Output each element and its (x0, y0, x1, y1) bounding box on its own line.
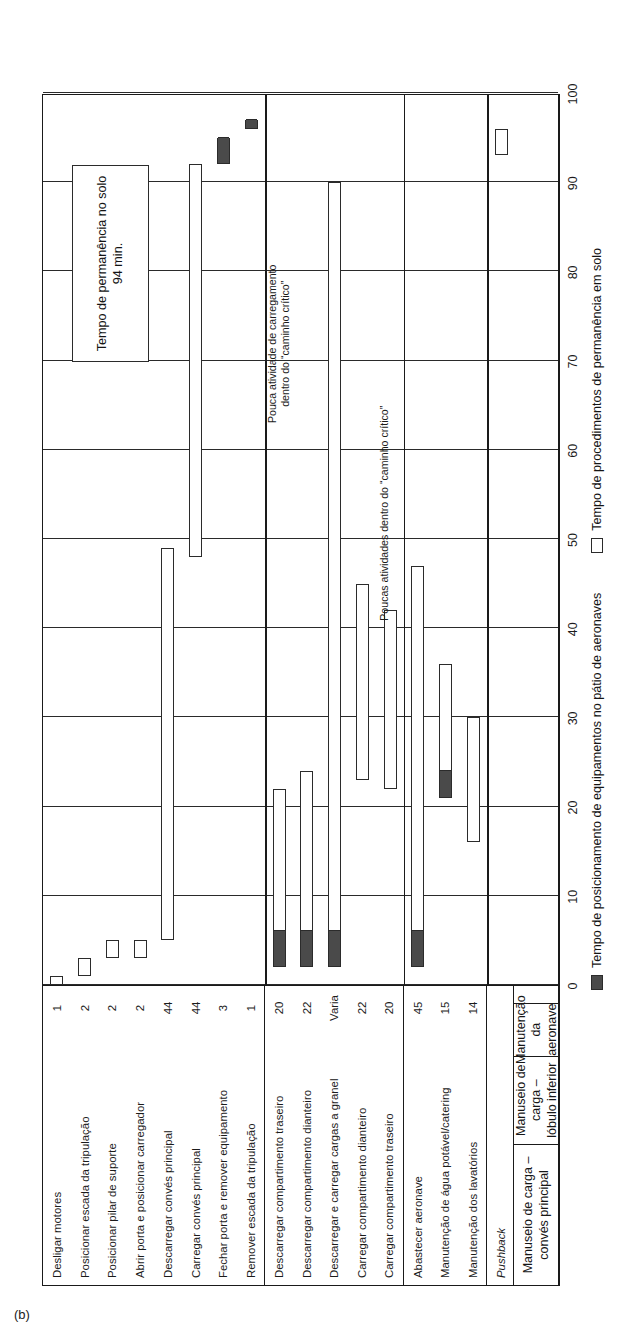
axis-tick-label: 60 (566, 444, 580, 458)
task-duration: 45 (403, 986, 431, 1030)
bar-setup-segment (329, 931, 340, 967)
axis-tick-label: 10 (566, 890, 580, 904)
task-name: Pushback (487, 1030, 515, 1285)
gantt-bar (50, 976, 63, 985)
rotated-figure-wrapper: Manuseio de carga – convés principalManu… (0, 0, 635, 1332)
group-header-row: Manuseio de carga – convés principalManu… (513, 985, 559, 1285)
gantt-bar (216, 138, 229, 165)
task-name: Descarregar compartimento dianteiro (292, 1030, 320, 1285)
group-header: Manuseio de carga – lóbulo inferior (514, 1056, 560, 1144)
task-duration: 44 (154, 986, 182, 1030)
bar-setup-segment (301, 931, 312, 967)
axis-tick-label: 100 (566, 84, 580, 105)
gantt-bar (161, 548, 174, 940)
axis-tick-label: 20 (566, 801, 580, 815)
task-duration: 22 (292, 986, 320, 1030)
gantt-bar (133, 940, 146, 958)
task-duration: 14 (459, 986, 487, 1030)
legend-swatch-light-icon (591, 538, 603, 553)
task-name: Desligar motores (43, 1030, 71, 1285)
task-duration: 22 (348, 986, 376, 1030)
axis-tick-label: 0 (566, 983, 580, 990)
chart-annotation: Poucas atividades dentro do “caminho crí… (377, 308, 391, 718)
task-duration: 15 (431, 986, 459, 1030)
axis-tick-label: 80 (566, 265, 580, 279)
gantt-bar (272, 789, 285, 967)
grid-line (43, 984, 558, 985)
task-label-columns: Desligar motoresPosicionar escada da tri… (43, 986, 558, 1285)
task-name: Manutenção de água potável/catering (431, 1030, 459, 1285)
gantt-bar (78, 958, 91, 976)
task-name: Abastecer aeronave (403, 1030, 431, 1285)
gantt-bar (355, 584, 368, 780)
task-duration: 3 (209, 986, 237, 1030)
task-name: Remover escada da tripulação (237, 1030, 265, 1285)
task-name: Descarregar convés principal (154, 1030, 182, 1285)
chart-annotation: Pouca atividade de carregamento dentro d… (265, 210, 293, 478)
legend-label: Tempo de procedimentos de permanência em… (590, 248, 604, 531)
bar-setup-segment (217, 137, 228, 164)
axis-tick-label: 40 (566, 622, 580, 636)
legend-item: Tempo de procedimentos de permanência em… (590, 248, 604, 553)
gantt-bar (189, 164, 202, 556)
grid-line (43, 627, 558, 628)
task-name-column: Desligar motoresPosicionar escada da tri… (43, 1030, 558, 1285)
task-duration: 2 (70, 986, 98, 1030)
figure-page: Manuseio de carga – convés principalManu… (0, 0, 635, 1332)
task-duration: 20 (265, 986, 293, 1030)
task-name: Descarregar e carregar cargas a granel (320, 1030, 348, 1285)
task-name: Posicionar pilar de suporte (98, 1030, 126, 1285)
task-duration: 2 (126, 986, 154, 1030)
task-duration (487, 986, 515, 1030)
bar-setup-segment (245, 119, 256, 128)
gantt-bar (300, 771, 313, 967)
gantt-bar (494, 129, 507, 156)
task-name: Abrir porta e posicionar carregador (126, 1030, 154, 1285)
task-name: Carregar compartimento dianteiro (348, 1030, 376, 1285)
task-duration: 20 (376, 986, 404, 1030)
task-duration: 1 (237, 986, 265, 1030)
task-duration: 44 (181, 986, 209, 1030)
gantt-bar (466, 717, 479, 842)
task-name: Posicionar escada da tripulação (70, 1030, 98, 1285)
legend-item: Tempo de posicionamento de equipamentos … (590, 593, 604, 990)
grid-line (43, 538, 558, 539)
task-duration: 1 (43, 986, 71, 1030)
axis-tick-label: 30 (566, 711, 580, 725)
ground-time-callout: Tempo de permanência no solo 94 min. (71, 165, 148, 361)
grid-line (43, 92, 558, 93)
grid-line (43, 716, 558, 717)
bar-setup-segment (440, 770, 451, 797)
task-name: Carregar convés principal (181, 1030, 209, 1285)
time-axis: 0102030405060708090100 (564, 94, 590, 986)
gantt-bar (411, 566, 424, 967)
figure-caption: (b) (14, 1307, 30, 1322)
chart-legend: Tempo de posicionamento de equipamentos … (590, 248, 604, 990)
task-name: Carregar compartimento traseiro (376, 1030, 404, 1285)
group-separator (487, 95, 488, 985)
axis-tick-label: 50 (566, 533, 580, 547)
axis-tick-label: 90 (566, 176, 580, 190)
gantt-chart: Manuseio de carga – convés principalManu… (20, 38, 616, 1294)
task-name: Manutenção dos lavatórios (459, 1030, 487, 1285)
gantt-bar (439, 664, 452, 798)
group-header (514, 985, 560, 1003)
task-duration: 2 (98, 986, 126, 1030)
bar-setup-segment (273, 931, 284, 967)
gantt-bar (244, 120, 257, 129)
legend-swatch-dark-icon (591, 975, 603, 990)
task-name: Descarregar compartimento traseiro (265, 1030, 293, 1285)
grid-line (43, 449, 558, 450)
gantt-bar (105, 940, 118, 958)
bar-setup-segment (412, 931, 423, 967)
task-name: Fechar porta e remover equipamento (209, 1030, 237, 1285)
group-header: Manutenção da aeronave (514, 1003, 560, 1056)
legend-label: Tempo de posicionamento de equipamentos … (590, 593, 604, 968)
duration-column: 12224444312022Varia2220451514 (43, 986, 558, 1030)
group-separator (403, 95, 404, 985)
group-header: Manuseio de carga – convés principal (514, 1144, 560, 1285)
axis-tick-label: 70 (566, 355, 580, 369)
task-label-block: Desligar motoresPosicionar escada da tri… (43, 985, 559, 1285)
gantt-bar (328, 182, 341, 967)
task-duration: Varia (320, 986, 348, 1030)
